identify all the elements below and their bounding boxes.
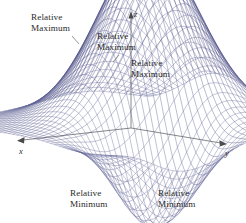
callout-line-2: Maximum (31, 23, 70, 34)
callout-relative-minimum-2: Relative Minimum (158, 188, 195, 209)
callout-line-1: Relative (31, 12, 70, 23)
callout-line-1: Relative (158, 188, 195, 199)
axis-label-y: y (225, 148, 229, 158)
axis-label-x: x (19, 146, 23, 156)
callout-line-2: Maximum (97, 42, 136, 53)
callout-relative-maximum-1: Relative Maximum (31, 12, 70, 33)
callout-line-2: Minimum (70, 199, 107, 210)
callout-line-2: Minimum (158, 199, 195, 210)
axis-x (17, 128, 131, 143)
callout-line-1: Relative (70, 188, 107, 199)
callout-line-2: Maximum (131, 69, 170, 80)
callout-relative-minimum-1: Relative Minimum (70, 188, 107, 209)
callout-line-1: Relative (97, 31, 136, 42)
axis-label-z: z (134, 9, 137, 19)
callout-line-1: Relative (131, 58, 170, 69)
axis-y (131, 128, 227, 147)
surface-plot-figure: Relative Maximum Relative Maximum Relati… (0, 0, 246, 223)
callout-relative-maximum-3: Relative Maximum (131, 58, 170, 79)
callout-relative-maximum-2: Relative Maximum (97, 31, 136, 52)
